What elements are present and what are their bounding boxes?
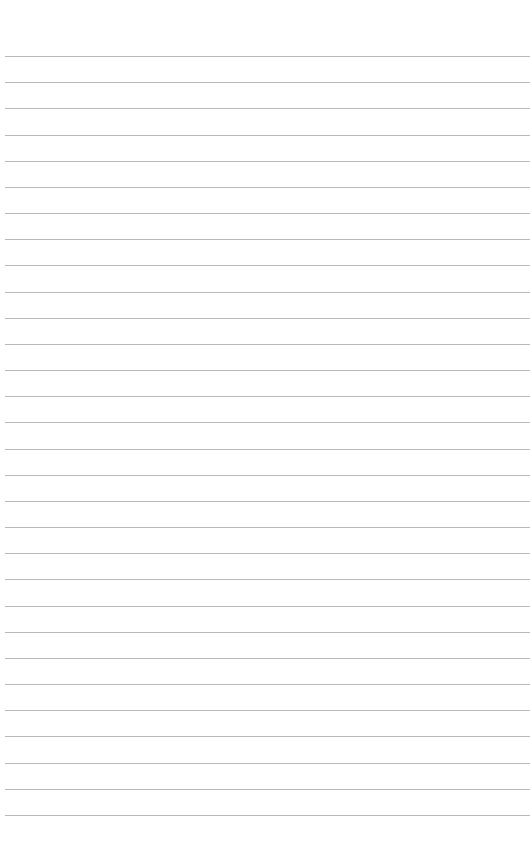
ruled-line [5,344,530,345]
ruled-line [5,553,530,554]
ruled-line [5,82,530,83]
ruled-line [5,710,530,711]
ruled-line [5,292,530,293]
lined-paper-page [0,0,530,865]
ruled-line [5,422,530,423]
ruled-line [5,135,530,136]
ruled-line [5,501,530,502]
ruled-line [5,658,530,659]
ruled-line [5,56,530,57]
ruled-line [5,161,530,162]
ruled-line [5,187,530,188]
ruled-line [5,632,530,633]
ruled-line [5,684,530,685]
ruled-line [5,736,530,737]
ruled-line [5,449,530,450]
ruled-line [5,579,530,580]
ruled-line [5,239,530,240]
ruled-line [5,527,530,528]
ruled-line [5,318,530,319]
ruled-line [5,370,530,371]
ruled-line [5,108,530,109]
ruled-line [5,475,530,476]
ruled-line [5,396,530,397]
ruled-line [5,265,530,266]
ruled-line [5,763,530,764]
ruled-line [5,815,530,816]
ruled-line [5,606,530,607]
ruled-line [5,789,530,790]
ruled-line [5,213,530,214]
